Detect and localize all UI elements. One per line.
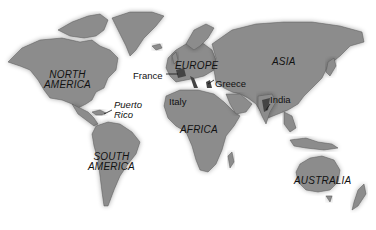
central-america-shape [72, 104, 98, 126]
world-map: NORTH AMERICA SOUTH AMERICA EUROPE ASIA … [0, 0, 376, 230]
indonesia-shape [290, 138, 338, 150]
map-land-shapes [0, 0, 376, 230]
india-label: India [270, 95, 291, 105]
scandinavia-shape [186, 24, 214, 50]
greece-label: Greece [215, 79, 246, 89]
puerto-rico-label-line2: Rico [114, 110, 142, 120]
tasmania-shape [326, 196, 332, 202]
caribbean-shape [92, 110, 106, 115]
africa-label: AFRICA [180, 125, 218, 135]
asia-label: ASIA [272, 57, 296, 67]
puerto-rico-label: Puerto Rico [114, 100, 142, 119]
south-america-label: SOUTH AMERICA [88, 152, 135, 172]
australia-label: AUSTRALIA [294, 176, 351, 186]
north-america-label: NORTH AMERICA [44, 70, 91, 90]
madagascar-shape [228, 152, 234, 168]
north-america-label-line2: AMERICA [44, 80, 91, 90]
greece-highlight [206, 80, 212, 88]
europe-label: EUROPE [175, 61, 218, 71]
arctic-islands-shape [58, 14, 108, 38]
southeast-asia-shape [284, 112, 296, 132]
australia-shape [296, 156, 340, 192]
iceland-shape [152, 44, 162, 50]
south-america-label-line2: AMERICA [88, 162, 135, 172]
france-label: France [133, 71, 163, 81]
puerto-rico-leader-line [104, 110, 112, 114]
new-zealand-shape [352, 184, 366, 210]
italy-label: Italy [169, 97, 186, 107]
